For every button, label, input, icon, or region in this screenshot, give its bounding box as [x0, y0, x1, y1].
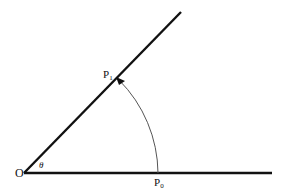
- arrowhead-icon: [116, 77, 125, 85]
- point-p0-label: P0: [154, 177, 164, 190]
- angle-label: θ: [39, 161, 43, 170]
- angle-diagram: O θ P1 P0: [0, 0, 285, 196]
- p1-subscript: 1: [109, 74, 113, 82]
- p0-subscript: 0: [160, 182, 164, 190]
- terminal-ray: [24, 12, 181, 173]
- point-p1-label: P1: [103, 69, 113, 82]
- origin-label: O: [15, 167, 24, 179]
- rotation-arc: [119, 80, 158, 173]
